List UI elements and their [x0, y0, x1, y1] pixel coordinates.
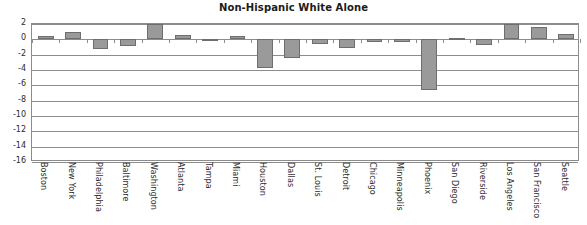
- y-tick-label: -6: [0, 80, 28, 88]
- x-tick-mark: [251, 39, 252, 43]
- x-tick-mark: [114, 39, 115, 43]
- y-axis: 20-2-4-6-8-10-12-14-16: [0, 23, 28, 161]
- x-tick-mark: [279, 39, 280, 43]
- bar: [120, 39, 136, 46]
- x-axis: BostonNew YorkPhiladelphiaBaltimoreWashi…: [31, 162, 579, 224]
- x-tick-mark: [169, 39, 170, 43]
- x-tick-mark: [142, 39, 143, 43]
- chart-screenshot: Non-Hispanic White Alone 20-2-4-6-8-10-1…: [0, 0, 587, 225]
- x-tick-label: Baltimore: [121, 162, 130, 202]
- x-tick-mark: [333, 39, 334, 43]
- x-tick-label: Los Angeles: [505, 162, 514, 211]
- bar: [449, 38, 465, 40]
- x-tick-mark: [87, 39, 88, 43]
- bar: [312, 39, 328, 44]
- bar: [558, 34, 574, 39]
- y-tick-label: 0: [0, 34, 28, 42]
- y-tick-label: -2: [0, 50, 28, 58]
- x-tick-label: San Francisco: [532, 162, 541, 218]
- bar: [230, 36, 246, 40]
- x-tick-label: Miami: [231, 162, 240, 187]
- bar: [93, 39, 109, 49]
- x-tick-label: Detroit: [341, 162, 350, 190]
- x-tick-label: New York: [67, 162, 76, 199]
- y-tick-label: -16: [0, 157, 28, 165]
- x-tick-label: Atlanta: [176, 162, 185, 191]
- x-tick-label: Houston: [258, 162, 267, 196]
- y-tick-label: -14: [0, 142, 28, 150]
- x-tick-mark: [498, 39, 499, 43]
- plot-area: [31, 23, 579, 161]
- bar: [257, 39, 273, 68]
- bar: [421, 39, 437, 90]
- x-tick-mark: [553, 39, 554, 43]
- x-tick-mark: [306, 39, 307, 43]
- x-tick-label: San Diego: [450, 162, 459, 204]
- x-tick-mark: [416, 39, 417, 43]
- x-tick-label: Dallas: [286, 162, 295, 187]
- bar: [284, 39, 300, 57]
- bar: [504, 24, 520, 39]
- x-tick-label: Phoenix: [423, 162, 432, 194]
- bar: [394, 39, 410, 41]
- x-tick-label: Riverside: [478, 162, 487, 200]
- y-tick-label: -4: [0, 65, 28, 73]
- y-tick-label: 2: [0, 19, 28, 27]
- x-tick-mark: [32, 39, 33, 43]
- bar: [38, 36, 54, 39]
- x-tick-label: St. Louis: [313, 162, 322, 197]
- y-tick-label: -12: [0, 126, 28, 134]
- x-tick-label: Chicago: [368, 162, 377, 195]
- x-tick-mark: [388, 39, 389, 43]
- bar: [367, 39, 383, 41]
- bar: [531, 27, 547, 39]
- y-tick-label: -8: [0, 96, 28, 104]
- x-tick-label: Seattle: [560, 162, 569, 191]
- x-tick-mark: [361, 39, 362, 43]
- y-tick-label: -10: [0, 111, 28, 119]
- x-tick-label: Boston: [39, 162, 48, 190]
- x-tick-mark: [224, 39, 225, 43]
- x-tick-mark: [470, 39, 471, 43]
- x-tick-label: Washington: [149, 162, 158, 210]
- x-tick-mark: [443, 39, 444, 43]
- x-tick-label: Philadelphia: [94, 162, 103, 212]
- bar: [339, 39, 355, 47]
- x-tick-mark: [580, 39, 581, 43]
- bar: [175, 35, 191, 40]
- bar: [476, 39, 492, 45]
- bar: [147, 24, 163, 39]
- chart-title: Non-Hispanic White Alone: [0, 2, 587, 13]
- x-tick-mark: [196, 39, 197, 43]
- x-tick-mark: [525, 39, 526, 43]
- bar: [202, 39, 218, 41]
- x-tick-mark: [59, 39, 60, 43]
- x-tick-label: Tampa: [204, 162, 213, 189]
- bar: [65, 32, 81, 40]
- x-tick-label: Minneapolis: [395, 162, 404, 211]
- bar-series: [32, 24, 578, 160]
